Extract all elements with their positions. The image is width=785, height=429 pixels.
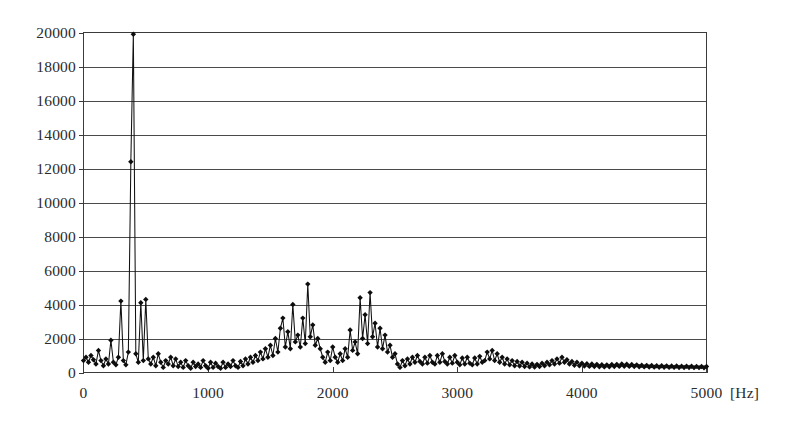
y-tick-label-16000: 16000 [36, 92, 76, 109]
x-tick-label-2000: 2000 [317, 384, 349, 401]
x-tick-label-0: 0 [80, 384, 88, 401]
x-tick-label-4000: 4000 [566, 384, 598, 401]
y-tick-label-10000: 10000 [36, 194, 76, 211]
y-tick-label-8000: 8000 [44, 228, 76, 245]
x-tick-label-3000: 3000 [441, 384, 473, 401]
chart-svg: 0200040006000800010000120001400016000180… [0, 0, 785, 429]
y-tick-label-0: 0 [68, 364, 76, 381]
x-tick-label-5000: 5000 [691, 384, 723, 401]
x-axis-unit-label: [Hz] [730, 384, 759, 401]
y-tick-label-2000: 2000 [44, 330, 76, 347]
y-tick-label-14000: 14000 [36, 126, 76, 143]
y-tick-label-12000: 12000 [36, 160, 76, 177]
y-tick-label-20000: 20000 [36, 24, 76, 41]
y-tick-label-4000: 4000 [44, 296, 76, 313]
y-tick-label-6000: 6000 [44, 262, 76, 279]
y-tick-label-18000: 18000 [36, 58, 76, 75]
spectrum-chart-figure: 0200040006000800010000120001400016000180… [0, 0, 785, 429]
x-tick-label-1000: 1000 [192, 384, 224, 401]
